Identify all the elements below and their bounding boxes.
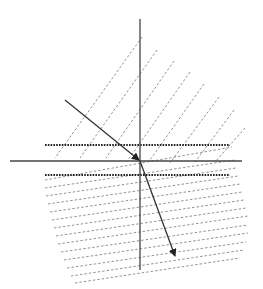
refraction-diagram [0, 0, 263, 289]
